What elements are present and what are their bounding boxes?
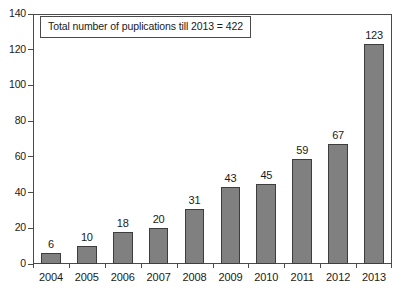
x-axis-tick-mark — [284, 264, 285, 268]
x-axis-tick-mark — [248, 264, 249, 268]
bar-value-label: 43 — [213, 172, 249, 185]
x-axis-tick-label: 2011 — [284, 270, 320, 284]
x-axis-tick-mark — [105, 264, 106, 268]
y-axis-tick-label: 20 — [15, 221, 26, 234]
bar-chart-figure: 020406080100120140 61018203143455967123 … — [0, 0, 411, 300]
bar-group[interactable]: 20 — [141, 14, 177, 264]
x-axis-tick-label: 2004 — [33, 270, 69, 284]
x-axis-tick-label: 2006 — [105, 270, 141, 284]
bar-group[interactable]: 6 — [33, 14, 69, 264]
bar-value-label: 20 — [141, 213, 177, 226]
x-axis-tick-mark — [33, 264, 34, 268]
bar-group[interactable]: 123 — [356, 14, 392, 264]
x-axis-tick-mark — [391, 264, 392, 268]
x-axis-tick-mark — [177, 264, 178, 268]
x-axis-tick-mark — [213, 264, 214, 268]
bar-group[interactable]: 59 — [284, 14, 320, 264]
x-axis-tick-label: 2013 — [356, 270, 392, 284]
x-axis-tick-label: 2010 — [248, 270, 284, 284]
bar-value-label: 6 — [33, 238, 69, 251]
x-axis-tick-label: 2005 — [69, 270, 105, 284]
y-axis-tick-label: 40 — [15, 186, 26, 199]
bar[interactable] — [328, 144, 348, 264]
y-axis-tick-label: 60 — [15, 150, 26, 163]
bar[interactable] — [149, 228, 169, 264]
x-axis-tick-label: 2007 — [141, 270, 177, 284]
x-axis-tick-label: 2012 — [320, 270, 356, 284]
x-axis-tick-label: 2008 — [177, 270, 213, 284]
bar-value-label: 59 — [284, 144, 320, 157]
bar-value-label: 67 — [320, 129, 356, 142]
bar-value-label: 18 — [105, 217, 141, 230]
bar-group[interactable]: 67 — [320, 14, 356, 264]
x-axis-tick-label: 2009 — [213, 270, 249, 284]
bar-group[interactable]: 31 — [177, 14, 213, 264]
bar[interactable] — [77, 246, 97, 264]
y-axis-tick-label: 140 — [9, 7, 26, 20]
x-axis-tick-mark — [141, 264, 142, 268]
bar-value-label: 45 — [248, 169, 284, 182]
bar[interactable] — [41, 253, 61, 264]
y-axis-tick-label: 120 — [9, 43, 26, 56]
bar[interactable] — [256, 184, 276, 264]
y-axis-tick-label: 80 — [15, 114, 26, 127]
bar[interactable] — [185, 209, 205, 264]
y-axis-tick-label: 0 — [20, 257, 26, 270]
x-axis-tick-mark — [356, 264, 357, 268]
bar-group[interactable]: 18 — [105, 14, 141, 264]
bars-layer: 61018203143455967123 — [33, 14, 392, 264]
y-axis-tick-label: 100 — [9, 78, 26, 91]
bar-group[interactable]: 10 — [69, 14, 105, 264]
y-axis: 020406080100120140 — [0, 0, 33, 300]
bar-group[interactable]: 43 — [213, 14, 249, 264]
total-publications-annotation: Total number of puplications till 2013 =… — [40, 16, 251, 38]
x-axis-tick-mark — [69, 264, 70, 268]
bar[interactable] — [292, 159, 312, 264]
x-axis-tick-mark — [320, 264, 321, 268]
bar-group[interactable]: 45 — [248, 14, 284, 264]
bar-value-label: 31 — [177, 194, 213, 207]
bar-value-label: 123 — [356, 29, 392, 42]
bar[interactable] — [221, 187, 241, 264]
bar[interactable] — [364, 44, 384, 264]
x-axis: 2004200520062007200820092010201120122013 — [33, 264, 392, 300]
bar[interactable] — [113, 232, 133, 264]
bar-value-label: 10 — [69, 231, 105, 244]
